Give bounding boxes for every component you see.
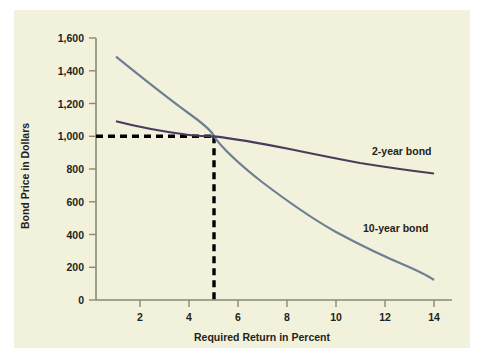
series-label-2year: 2-year bond — [372, 145, 432, 157]
x-tick-label-4: 4 — [186, 311, 192, 323]
x-axis-title: Required Return in Percent — [194, 331, 330, 343]
x-tick-label-14: 14 — [428, 311, 440, 323]
y-tick-label-1400: 1,400 — [40, 65, 84, 77]
x-tick-label-10: 10 — [330, 311, 342, 323]
series-label-10year: 10-year bond — [363, 222, 428, 234]
y-tick-label-800: 800 — [40, 163, 84, 175]
y-tick-label-1000: 1,000 — [40, 130, 84, 142]
y-tick-label-1600: 1,600 — [40, 32, 84, 44]
y-axis-ticks — [89, 38, 96, 300]
y-tick-label-200: 200 — [40, 261, 84, 273]
y-tick-label-400: 400 — [40, 229, 84, 241]
y-tick-label-0: 0 — [40, 294, 84, 306]
x-axis-ticks — [140, 300, 434, 307]
x-tick-label-2: 2 — [137, 311, 143, 323]
y-axis-title: Bond Price in Dollars — [19, 123, 31, 229]
series-line-10year — [116, 57, 434, 280]
chart-figure: 1,600 1,400 1,200 1,000 800 600 400 200 … — [0, 0, 488, 363]
x-tick-label-6: 6 — [235, 311, 241, 323]
x-tick-label-8: 8 — [284, 311, 290, 323]
x-tick-label-12: 12 — [379, 311, 391, 323]
y-tick-label-1200: 1,200 — [40, 98, 84, 110]
chart-plot-area — [0, 0, 488, 363]
y-tick-label-600: 600 — [40, 196, 84, 208]
